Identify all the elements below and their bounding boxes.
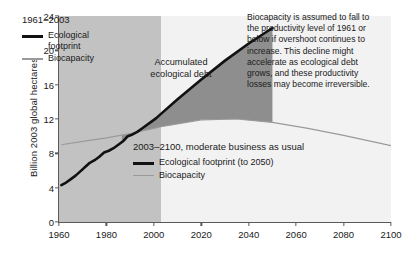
y-axis-tick-mark	[55, 118, 59, 119]
line-swatch-thick-icon	[133, 157, 154, 168]
y-axis-tick-label: 12	[12, 114, 54, 125]
x-axis-tick-mark	[58, 222, 59, 226]
x-axis-tick-mark	[390, 222, 391, 226]
legend-item-biocapacity-future: Biocapacity	[133, 170, 304, 181]
x-axis-tick-label: 2020	[191, 229, 212, 240]
y-axis-tick-mark	[55, 187, 59, 188]
y-axis-tick-label: 16	[12, 79, 54, 90]
legend-item-biocapacity: Biocapacity	[22, 53, 94, 64]
x-axis-tick-label: 1960	[48, 229, 69, 240]
chart-figure: Billion 2003 global hectares 04812162024…	[0, 0, 417, 259]
legend-history: 1961–2003 Ecological footprint Biocapaci…	[22, 14, 94, 64]
accumulated-ecological-debt-label: Accumulated ecological debt	[133, 56, 229, 80]
legend-label: Ecological footprint	[48, 30, 89, 51]
legend-label: Ecological footprint (to 2050)	[159, 157, 274, 168]
legend-label: Biocapacity	[48, 53, 94, 64]
x-axis-tick-label: 1980	[96, 229, 117, 240]
biocapacity-annotation-note: Biocapacity is assumed to fall to the pr…	[247, 12, 375, 90]
line-swatch-thin-icon	[133, 170, 154, 181]
legend-projection-title: 2003–2100, moderate business as usual	[133, 141, 304, 152]
legend-item-ecological-footprint: Ecological footprint	[22, 30, 94, 51]
y-axis-tick-label: 4	[12, 182, 54, 193]
y-axis-tick-label: 0	[12, 217, 54, 228]
x-axis-tick-mark	[343, 222, 344, 226]
x-axis-tick-label: 2040	[238, 229, 259, 240]
x-axis-tick-mark	[201, 222, 202, 226]
x-axis-tick-mark	[153, 222, 154, 226]
legend-history-title: 1961–2003	[22, 14, 94, 25]
legend-label: Biocapacity	[159, 170, 205, 181]
x-axis-tick-mark	[295, 222, 296, 226]
x-axis-tick-label: 2060	[286, 229, 307, 240]
x-axis-tick-mark	[106, 222, 107, 226]
x-axis-tick-mark	[248, 222, 249, 226]
y-axis-tick-label: 8	[12, 148, 54, 159]
x-axis-tick-label: 2100	[380, 229, 401, 240]
legend-projection: 2003–2100, moderate business as usual Ec…	[133, 141, 304, 181]
x-axis-tick-label: 2000	[143, 229, 164, 240]
y-axis-tick-mark	[55, 84, 59, 85]
line-swatch-thin-icon	[22, 53, 43, 64]
line-swatch-thick-icon	[22, 30, 43, 41]
y-axis-tick-mark	[55, 153, 59, 154]
x-axis-tick-label: 2080	[333, 229, 354, 240]
legend-item-ecological-footprint-2050: Ecological footprint (to 2050)	[133, 157, 304, 168]
